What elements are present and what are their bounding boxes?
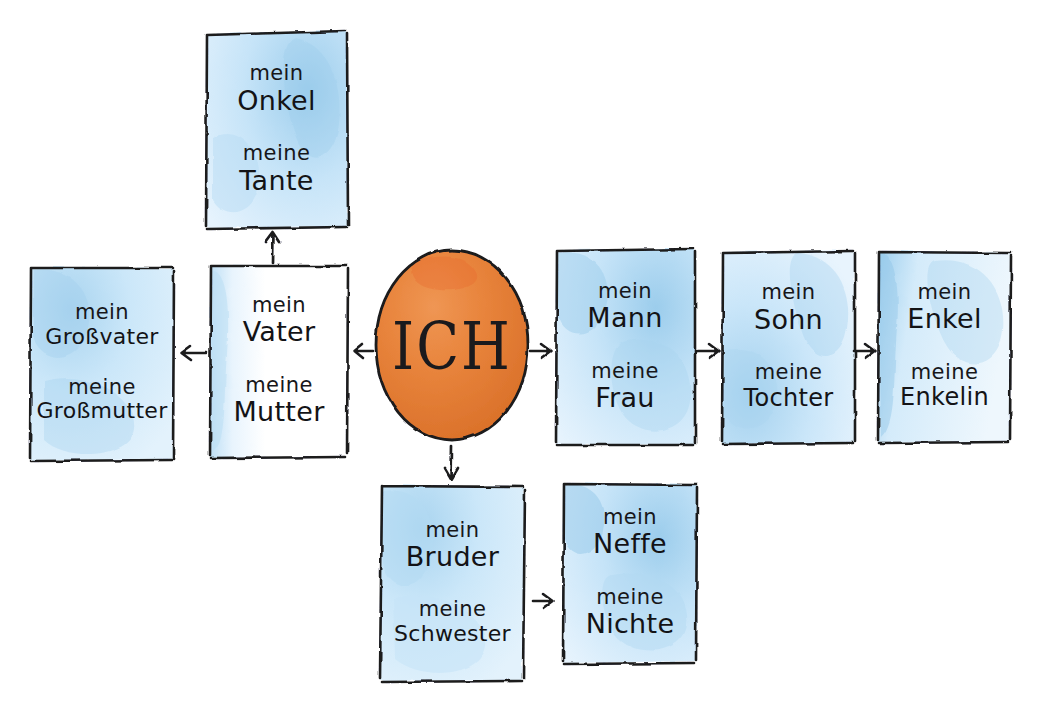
node-partner[interactable]: mein Mann meine Frau: [552, 245, 698, 448]
node-labels: mein Großvater meine Großmutter: [26, 301, 178, 423]
ich-label: ICH: [392, 307, 512, 384]
node-labels: mein Mann meine Frau: [552, 280, 698, 414]
noun-feminine: Enkelin: [900, 384, 989, 411]
node-onkel-tante[interactable]: mein Onkel meine Tante: [203, 28, 350, 230]
arrow-eltern-to-grosseltern-icon: [180, 341, 208, 365]
arrow-geschwister-to-neffe-icon: [531, 589, 557, 613]
arrow-ich-to-partner-icon: [528, 339, 554, 363]
noun-feminine: Nichte: [586, 609, 675, 639]
node-labels: mein Neffe meine Nichte: [559, 506, 701, 640]
node-grosseltern[interactable]: mein Großvater meine Großmutter: [26, 262, 178, 463]
feminine-pair: meine Großmutter: [36, 376, 167, 424]
article-masculine: mein: [249, 62, 303, 86]
feminine-pair: meine Tante: [239, 142, 313, 196]
noun-masculine: Sohn: [754, 305, 823, 335]
node-neffe-nichte[interactable]: mein Neffe meine Nichte: [559, 479, 701, 666]
noun-masculine: Vater: [243, 317, 316, 347]
article-masculine: mein: [425, 519, 479, 543]
article-masculine: mein: [761, 281, 815, 305]
feminine-pair: meine Schwester: [394, 598, 511, 646]
noun-feminine: Frau: [595, 383, 655, 413]
article-feminine: meine: [591, 360, 658, 384]
masculine-pair: mein Vater: [243, 294, 316, 348]
masculine-pair: mein Enkel: [907, 281, 981, 335]
noun-feminine: Mutter: [233, 397, 324, 427]
article-feminine: meine: [911, 361, 978, 385]
node-labels: mein Onkel meine Tante: [203, 62, 350, 196]
node-labels: mein Vater meine Mutter: [207, 294, 351, 428]
article-feminine: meine: [243, 142, 310, 166]
feminine-pair: meine Nichte: [586, 586, 675, 640]
center-node-ich[interactable]: ICH: [372, 246, 532, 444]
node-geschwister[interactable]: mein Bruder meine Schwester: [377, 481, 528, 684]
arrow-kinder-to-enkelkinder-icon: [852, 339, 878, 363]
node-labels: mein Bruder meine Schwester: [377, 519, 528, 647]
noun-feminine: Großmutter: [36, 399, 167, 424]
masculine-pair: mein Bruder: [406, 519, 499, 573]
arrow-ich-to-geschwister-icon: [437, 444, 467, 482]
masculine-pair: mein Onkel: [237, 62, 316, 116]
noun-feminine: Tochter: [744, 385, 834, 412]
node-enkelkinder[interactable]: mein Enkel meine Enkelin: [875, 247, 1014, 445]
article-masculine: mein: [917, 281, 971, 305]
noun-masculine: Großvater: [45, 325, 158, 350]
noun-masculine: Enkel: [907, 304, 981, 334]
article-feminine: meine: [596, 586, 663, 610]
feminine-pair: meine Enkelin: [900, 361, 989, 411]
arrow-partner-to-kinder-icon: [696, 339, 722, 363]
masculine-pair: mein Mann: [587, 280, 662, 334]
article-masculine: mein: [598, 280, 652, 304]
feminine-pair: meine Mutter: [233, 374, 324, 428]
noun-masculine: Onkel: [237, 86, 316, 116]
feminine-pair: meine Tochter: [744, 361, 834, 411]
noun-masculine: Mann: [587, 303, 662, 333]
noun-masculine: Bruder: [406, 542, 499, 572]
arrow-ich-to-eltern-icon: [352, 339, 376, 363]
arrow-eltern-to-onkel-icon: [258, 228, 288, 264]
noun-masculine: Neffe: [593, 529, 667, 559]
masculine-pair: mein Neffe: [593, 506, 667, 560]
article-masculine: mein: [75, 301, 129, 325]
node-kinder[interactable]: mein Sohn meine Tochter: [719, 247, 858, 446]
article-feminine: meine: [68, 376, 135, 400]
family-tree-diagram: mein Onkel meine Tante mein Großvater: [0, 0, 1037, 716]
node-labels: mein Sohn meine Tochter: [719, 281, 858, 411]
masculine-pair: mein Großvater: [45, 301, 158, 349]
article-feminine: meine: [419, 598, 486, 622]
article-feminine: meine: [245, 374, 312, 398]
article-masculine: mein: [252, 294, 306, 318]
article-feminine: meine: [755, 361, 822, 385]
node-eltern[interactable]: mein Vater meine Mutter: [207, 261, 351, 460]
noun-feminine: Schwester: [394, 622, 511, 647]
masculine-pair: mein Sohn: [754, 281, 823, 335]
noun-feminine: Tante: [239, 166, 313, 196]
node-labels: mein Enkel meine Enkelin: [875, 281, 1014, 411]
article-masculine: mein: [603, 506, 657, 530]
feminine-pair: meine Frau: [591, 360, 658, 414]
